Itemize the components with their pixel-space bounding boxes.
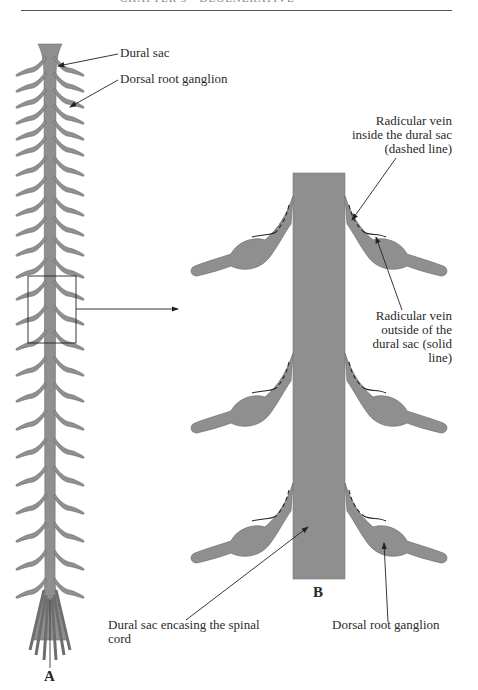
- label-line: Radicular vein: [373, 309, 452, 323]
- label-radicular-vein-inside: Radicular vein inside the dural sac (das…: [352, 114, 452, 156]
- label-line: (dashed line): [352, 142, 452, 156]
- panel-letter-b: B: [313, 584, 323, 601]
- panel-b-segment: [186, 158, 447, 622]
- label-dural-sac: Dural sac: [120, 46, 169, 60]
- panel-a-spine: [16, 44, 84, 668]
- label-line: Dural sac encasing the spinal: [108, 618, 260, 632]
- label-line: outside of the: [373, 323, 452, 337]
- label-line: Radicular vein: [352, 114, 452, 128]
- label-line: inside the dural sac: [352, 128, 452, 142]
- label-line: dural sac (solid: [373, 337, 452, 351]
- label-line: cord: [108, 632, 260, 646]
- label-dural-sac-encasing-cord: Dural sac encasing the spinal cord: [108, 618, 260, 646]
- label-radicular-vein-outside: Radicular vein outside of the dural sac …: [373, 309, 452, 365]
- label-dorsal-root-ganglion-b: Dorsal root ganglion: [332, 618, 440, 632]
- label-line: line): [373, 351, 452, 365]
- panel-letter-a: A: [44, 668, 55, 685]
- label-dorsal-root-ganglion-a: Dorsal root ganglion: [120, 72, 228, 86]
